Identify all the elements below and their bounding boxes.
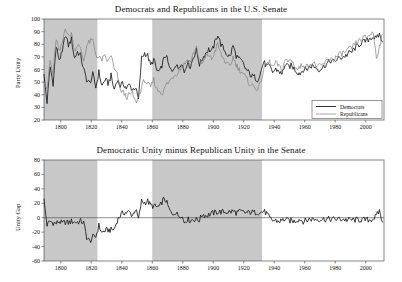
svg-text:1900: 1900 [207,265,219,271]
svg-text:1920: 1920 [238,124,250,130]
svg-text:1860: 1860 [146,265,158,271]
svg-text:1820: 1820 [85,265,97,271]
svg-text:1920: 1920 [238,265,250,271]
panel-senate-unity-gap: Democratic Unity minus Republican Unity … [0,141,402,282]
panel-top-plot: 2030405060708090100180018201840186018801… [0,0,402,141]
svg-text:1860: 1860 [146,124,158,130]
svg-text:1800: 1800 [55,265,67,271]
svg-text:1900: 1900 [207,124,219,130]
legend-label-republicans: Republicans [340,111,368,117]
svg-text:30: 30 [34,104,40,110]
svg-text:20: 20 [34,200,40,206]
svg-text:2000: 2000 [360,265,372,271]
svg-text:-60: -60 [32,258,40,264]
svg-text:1880: 1880 [177,124,189,130]
svg-text:1820: 1820 [85,124,97,130]
svg-text:100: 100 [31,16,40,22]
svg-text:1840: 1840 [116,124,128,130]
svg-text:1940: 1940 [268,124,280,130]
svg-text:60: 60 [34,67,40,73]
panel-bottom-plot: -60-40-200204060801800182018401860188019… [0,141,402,282]
svg-text:-20: -20 [32,229,40,235]
svg-text:40: 40 [34,186,40,192]
svg-text:1800: 1800 [55,124,67,130]
svg-text:80: 80 [34,41,40,47]
svg-text:80: 80 [34,157,40,163]
svg-text:1980: 1980 [329,124,341,130]
svg-text:20: 20 [34,117,40,123]
legend: DemocratsRepublicans [312,101,382,119]
chart-figure: Democrats and Republicans in the U.S. Se… [0,0,402,282]
svg-text:90: 90 [34,29,40,35]
svg-text:40: 40 [34,92,40,98]
svg-text:50: 50 [34,79,40,85]
svg-text:1960: 1960 [299,265,311,271]
svg-text:1840: 1840 [116,265,128,271]
svg-text:60: 60 [34,171,40,177]
svg-text:1960: 1960 [299,124,311,130]
panel-senate-party-unity: Democrats and Republicans in the U.S. Se… [0,0,402,141]
svg-text:1940: 1940 [268,265,280,271]
svg-text:70: 70 [34,54,40,60]
svg-text:1980: 1980 [329,265,341,271]
svg-text:-40: -40 [32,244,40,250]
svg-text:2000: 2000 [360,124,372,130]
svg-text:0: 0 [37,215,40,221]
svg-text:1880: 1880 [177,265,189,271]
legend-label-democrats: Democrats [340,104,364,110]
